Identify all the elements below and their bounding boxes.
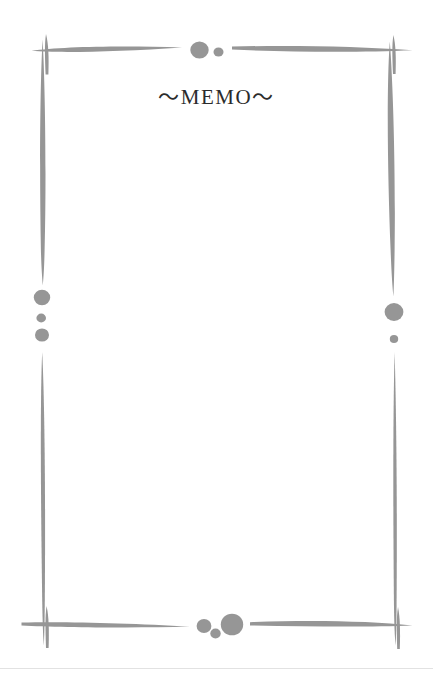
bottom-left-cross-icon xyxy=(45,606,48,648)
top-dot-large xyxy=(190,41,208,58)
top-left-horizontal-stroke xyxy=(32,46,183,51)
left-dot-medium xyxy=(35,328,49,341)
left-dot-large xyxy=(34,290,50,306)
right-dot-large xyxy=(385,303,404,321)
bottom-right-cross-icon xyxy=(397,607,400,649)
right-upper-vertical-stroke xyxy=(388,42,395,297)
bottom-dot-medium xyxy=(197,619,212,633)
page-bottom-edge-line xyxy=(0,668,433,669)
page-title: ～MEMO～ xyxy=(0,84,433,110)
top-right-cross-icon xyxy=(392,35,395,74)
top-dot-small xyxy=(214,47,224,56)
bottom-dot-small xyxy=(210,629,220,639)
top-left-cross-icon xyxy=(45,34,49,75)
bottom-right-horizontal-stroke xyxy=(250,621,413,627)
left-upper-vertical-stroke xyxy=(40,40,45,286)
bottom-dot-large xyxy=(221,614,243,636)
right-dot-small xyxy=(390,335,398,343)
left-lower-vertical-stroke xyxy=(41,352,45,646)
right-lower-vertical-stroke xyxy=(393,352,397,646)
memo-page: ～MEMO～ xyxy=(0,0,433,677)
top-right-horizontal-stroke xyxy=(232,46,413,52)
memo-writing-area[interactable] xyxy=(60,125,380,595)
left-dot-small xyxy=(36,314,46,323)
